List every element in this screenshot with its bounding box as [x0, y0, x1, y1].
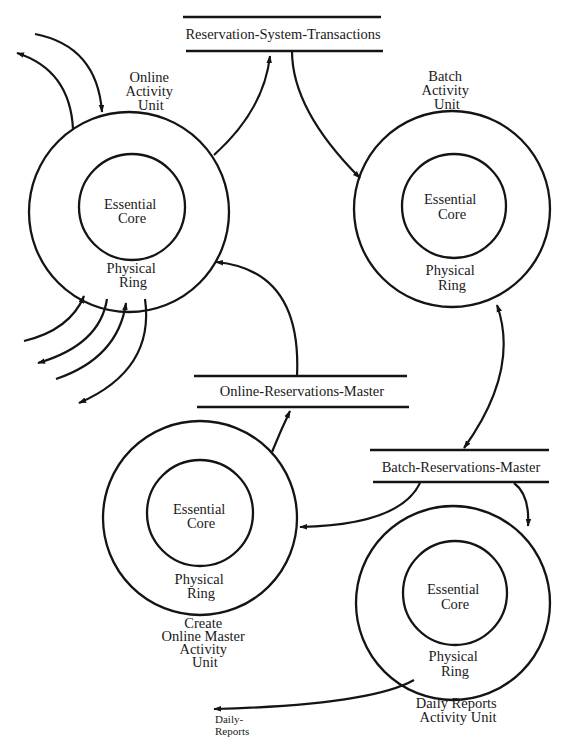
flow-arrow-daily-reports-out — [214, 680, 414, 709]
store-online-reservations-master: Online-Reservations-Master — [194, 376, 409, 407]
unit-create-online-master: Essential Core Physical Ring Create Onli… — [103, 421, 297, 670]
unit-batch-activity: Batch Activity Unit Essential Core Physi… — [354, 68, 550, 307]
store-label: Online-Reservations-Master — [220, 383, 384, 399]
physical-ring-label: Physical Ring — [175, 571, 228, 601]
unit-title: Online Activity Unit — [125, 69, 176, 113]
unit-online-activity: Online Activity Unit Essential Core Phys… — [29, 69, 229, 312]
essential-core-label: Essential Core — [427, 581, 483, 612]
unit-title: Batch Activity Unit — [421, 68, 472, 112]
flow-arrow-external-in — [56, 303, 126, 379]
flow-arrow-external-out — [17, 53, 73, 129]
flow-arrow-rst-to-batch — [292, 51, 360, 178]
physical-ring-label: Physical Ring — [107, 260, 160, 290]
store-batch-reservations-master: Batch-Reservations-Master — [370, 450, 549, 482]
daily-reports-output-label: Daily- Reports — [215, 713, 249, 737]
store-label: Batch-Reservations-Master — [382, 459, 541, 475]
flow-arrow-batch-brm-bidirectional — [464, 305, 504, 448]
essential-core-label: Essential Core — [424, 191, 480, 222]
essential-core-label: Essential Core — [104, 196, 160, 226]
physical-ring-label: Physical Ring — [426, 262, 479, 293]
flow-arrow-orm-to-online — [216, 262, 297, 376]
unit-title: Create Online Master Activity Unit — [162, 615, 249, 670]
essential-core-label: Essential Core — [173, 501, 229, 531]
flow-arrow-create-to-orm — [272, 411, 290, 452]
flow-arrow-external-out — [38, 299, 107, 363]
flow-arrow-brm-to-daily — [514, 483, 528, 526]
store-reservation-system-transactions: Reservation-System-Transactions — [183, 17, 383, 51]
flow-arrow-online-to-rst — [214, 56, 270, 155]
store-label: Reservation-System-Transactions — [185, 26, 381, 42]
physical-ring-label: Physical Ring — [429, 648, 482, 679]
flow-arrow-external-out — [79, 299, 146, 403]
activity-unit-diagram: Reservation-System-Transactions Online-R… — [0, 0, 575, 750]
flow-arrow-external-in — [24, 296, 84, 341]
unit-title: Daily Reports Activity Unit — [416, 695, 501, 725]
